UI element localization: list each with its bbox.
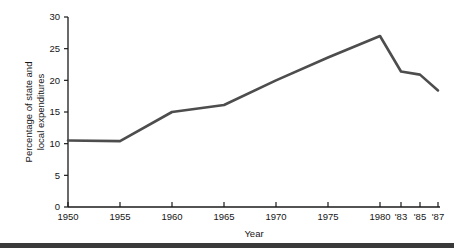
x-axis-ticks: 1950195519601965197019751980'83'85'87: [57, 202, 444, 222]
y-axis-ticks: 051015202530: [49, 11, 68, 212]
y-tick-label: 20: [49, 75, 60, 86]
y-axis-title-line2: local expenditures: [35, 73, 46, 150]
y-tick-label: 30: [49, 11, 60, 22]
x-tick-label: 1965: [213, 211, 234, 222]
x-axis-title: Year: [244, 228, 263, 239]
x-tick-label: 1975: [317, 211, 338, 222]
x-tick-label: 1980: [369, 211, 390, 222]
x-tick-label: '83: [395, 211, 407, 222]
x-tick-label: 1950: [57, 211, 78, 222]
y-tick-label: 10: [49, 138, 60, 149]
x-tick-label: 1960: [161, 211, 182, 222]
y-axis-title-line1: Percentage of state and: [23, 62, 34, 163]
x-tick-label: 1955: [109, 211, 130, 222]
y-tick-label: 5: [55, 170, 60, 181]
x-tick-label: 1970: [265, 211, 286, 222]
y-tick-label: 15: [49, 106, 60, 117]
chart-figure: 051015202530 195019551960196519701975198…: [0, 0, 454, 252]
data-series-line: [68, 36, 438, 141]
y-tick-label: 25: [49, 43, 60, 54]
x-tick-label: '85: [414, 211, 426, 222]
x-tick-label: '87: [432, 211, 444, 222]
line-chart: 051015202530 195019551960196519701975198…: [0, 0, 454, 252]
